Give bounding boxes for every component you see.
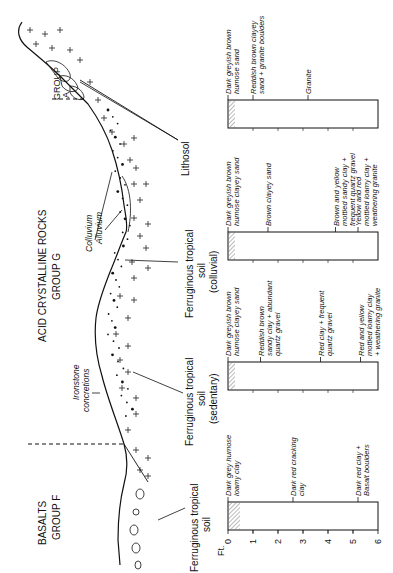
alluvium-label: Alluvium [94,212,104,245]
humus-horizon-hatch [228,362,235,390]
soil-label-colluvial-3: (colluvial) [208,251,219,293]
ironstone-concretion-symbols [107,109,134,417]
soil-column-bar [228,232,378,260]
horizon-label: clay [297,481,306,496]
group-a-letter: A [61,92,71,98]
soil-column: Dark greyish brownhumose sandReddish bro… [224,15,378,131]
horizon-label: humose sand [232,48,241,94]
soil-label-basalt-2: soil [201,517,212,532]
horizon-label: sand + granite boulders [257,15,266,94]
horizon-label: + weathering granite [373,288,382,356]
acid-rocks-label: ACID CRYSTALLINE ROCKS [37,209,48,342]
horizon-label: loamy clay [232,459,241,496]
basalt-boulder-symbols [130,489,144,569]
soil-label-sedentary: Ferruginous tropical [184,358,195,446]
basalts-label: BASALTS [37,500,48,545]
horizon-label: quartz gravel [325,312,334,356]
soil-column: Dark grey humoseloamy clayDark red crack… [224,435,378,533]
depth-tick-label: 6 [373,539,383,544]
horizon-label: humose clayey sand [232,287,241,356]
horizon-label: Brown clayey sand [264,162,273,226]
horizon-label: Basalt boulders [362,444,371,496]
concretions-label: concretions [81,368,91,412]
soil-catena-figure: BASALTS GROUP F ACID CRYSTALLINE ROCKS G… [0,0,393,573]
soil-label-lithosol: Lithosol [180,142,191,176]
soil-column-bar [228,502,378,530]
soil-label-sedentary-3: (sedentary) [208,373,219,424]
catena-diagram: BASALTS GROUP F ACID CRYSTALLINE ROCKS G… [0,0,393,573]
depth-tick-label: 2 [273,539,283,544]
soil-profile-columns: Dark grey humoseloamy clayDark red crack… [224,15,382,533]
acid-rocks-group-label: GROUP G [51,253,62,300]
soil-label-colluvial: Ferruginous tropical [184,230,195,318]
depth-tick-label: 5 [348,539,358,544]
humus-horizon-hatch [228,232,235,260]
soil-column: Dark greyish brownhumose clayey sandRedd… [224,280,382,393]
humus-horizon-hatch [228,100,235,128]
depth-tick-label: 4 [323,539,333,544]
horizon-label: humose clayey sand [232,157,241,226]
ironstone-label: Ironstone [71,364,81,400]
soil-column-bar [228,100,378,128]
horizon-label: weathering granite [370,164,379,226]
horizon-label: quartz gravel [273,312,282,356]
depth-scale: Ft. 0123456 [216,530,383,556]
colluvium-label: Colluvium [84,215,94,252]
soil-column: Dark greyish brownhumose clayey sandBrow… [224,153,379,263]
humus-horizon-hatch [228,502,240,530]
soil-column-bar [228,362,378,390]
soil-label-colluvial-2: soil [196,263,207,278]
soil-label-basalt: Ferruginous tropical [189,484,200,572]
depth-tick-label: 0 [223,539,233,544]
depth-tick-label: 3 [298,539,308,544]
soil-label-sedentary-2: soil [196,391,207,406]
basalts-group-label: GROUP F [51,495,62,540]
horizon-label: Granite [304,69,313,94]
depth-tick-label: 1 [248,539,258,544]
depth-unit-label: Ft. [216,546,226,557]
